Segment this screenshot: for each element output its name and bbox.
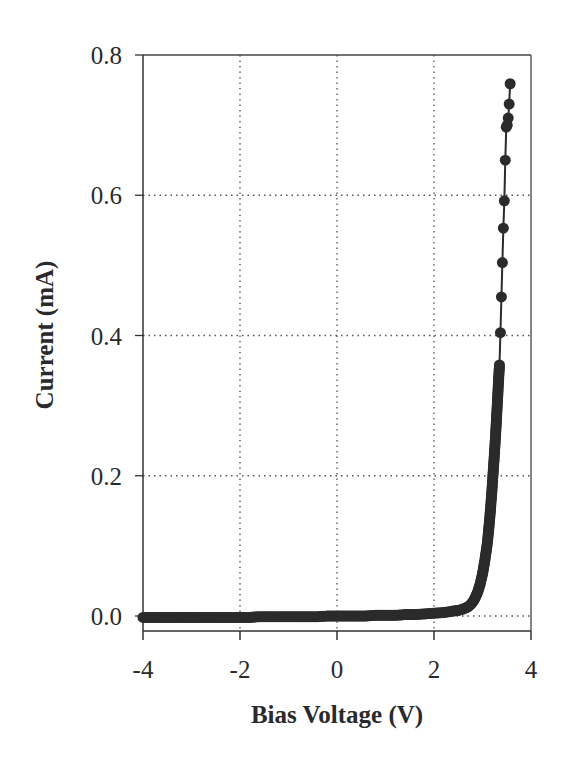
y-axis-ticks: 0.00.20.40.60.8 [91, 42, 143, 630]
x-tick-label: 4 [525, 656, 538, 683]
y-tick-label: 0.2 [91, 463, 122, 490]
data-point [505, 78, 516, 89]
data-point [503, 113, 514, 124]
x-tick-label: -4 [133, 656, 154, 683]
data-point [504, 99, 515, 110]
x-axis-title: Bias Voltage (V) [251, 701, 423, 729]
y-axis-title: Current (mA) [31, 261, 59, 410]
y-tick-label: 0.4 [91, 323, 123, 350]
x-tick-label: 0 [331, 656, 344, 683]
data-point [494, 359, 505, 370]
data-point [497, 257, 508, 268]
iv-chart: -4-2024 0.00.20.40.60.8 Bias Voltage (V)… [0, 0, 565, 760]
grid-lines [143, 55, 531, 631]
series-line [143, 84, 510, 618]
x-tick-label: -2 [230, 656, 251, 683]
data-point [495, 327, 506, 338]
data-point [498, 223, 509, 234]
data-point [500, 155, 511, 166]
y-tick-label: 0.8 [91, 42, 122, 69]
data-series [138, 78, 516, 623]
data-point [496, 291, 507, 302]
y-tick-label: 0.0 [91, 603, 122, 630]
data-point [499, 195, 510, 206]
x-axis-ticks: -4-2024 [133, 631, 538, 683]
y-tick-label: 0.6 [91, 182, 122, 209]
x-tick-label: 2 [428, 656, 441, 683]
